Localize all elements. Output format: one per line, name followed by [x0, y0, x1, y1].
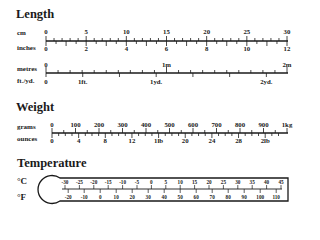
scale-label: 4 — [77, 137, 80, 144]
scale-label: 700 — [211, 121, 221, 128]
scale-label: -10 — [119, 179, 126, 185]
scale-label: 5 — [165, 179, 168, 185]
scale-label: 35 — [250, 179, 255, 185]
scale-label: 2lb — [261, 137, 270, 144]
scale-label: 90 — [242, 194, 247, 200]
scale-label: 2m — [282, 61, 291, 68]
scale-label: 15 — [192, 179, 197, 185]
scale-label: 110 — [272, 194, 280, 200]
scale-label: 800 — [235, 121, 245, 128]
scale-label: 10 — [178, 179, 183, 185]
scale-label: 10 — [123, 28, 130, 35]
scale-label: 40 — [264, 179, 269, 185]
scale-label: 15 — [163, 28, 170, 35]
scale-label: 20 — [130, 194, 135, 200]
scale-label: 24 — [208, 137, 215, 144]
scale-label: 400 — [141, 121, 151, 128]
scale-label: 5 — [84, 28, 87, 35]
scale-label: 20 — [203, 28, 210, 35]
scale-label: 1lb — [154, 137, 163, 144]
scale-label: 1kg — [282, 121, 293, 128]
scale-label: 0 — [99, 194, 102, 200]
scale-label: 600 — [188, 121, 198, 128]
scale-label: -20 — [65, 194, 72, 200]
scale-label: 900 — [258, 121, 268, 128]
scale-label: 30 — [146, 194, 151, 200]
scale-label: 0 — [44, 78, 47, 85]
scale-label: -20 — [90, 179, 97, 185]
scale-label: 10 — [243, 45, 250, 52]
scale-label: 45 — [278, 179, 283, 185]
scale-label: 12 — [284, 45, 291, 52]
scale-label: 20 — [206, 179, 211, 185]
scale-label: 6 — [165, 45, 168, 52]
scale-label: -15 — [105, 179, 112, 185]
scale-label: 100 — [256, 194, 264, 200]
scale-label: 8 — [205, 45, 208, 52]
scale-label: 80 — [226, 194, 231, 200]
scale-label: -10 — [81, 194, 88, 200]
scale-label: 30 — [284, 28, 291, 35]
scale-label: 1yd. — [150, 78, 162, 85]
scale-label: 0 — [50, 137, 53, 144]
scale-label: 25 — [243, 28, 250, 35]
scale-label: 25 — [221, 179, 226, 185]
scale-label: 200 — [94, 121, 104, 128]
scale-label: 0 — [44, 61, 47, 68]
scale-label: 60 — [194, 194, 199, 200]
scale-label: 4 — [125, 45, 128, 52]
scale-label: 0 — [44, 28, 47, 35]
scale-label: 20 — [182, 137, 189, 144]
scale-label: 2yd. — [260, 78, 272, 85]
scale-label: 500 — [164, 121, 174, 128]
scale-label: 12 — [129, 137, 136, 144]
scale-label: 0 — [150, 179, 153, 185]
scale-label: 50 — [178, 194, 183, 200]
scale-label: 0 — [44, 45, 47, 52]
scale-label: 1ft. — [78, 78, 88, 85]
scale-label: 2 — [84, 45, 87, 52]
scale-label: -30 — [62, 179, 69, 185]
scale-label: 1m — [162, 61, 171, 68]
scale-label: 30 — [235, 179, 240, 185]
scale-label: -25 — [76, 179, 83, 185]
scale-label: 100 — [70, 121, 80, 128]
scale-label: 300 — [117, 121, 127, 128]
scale-label: 70 — [210, 194, 215, 200]
scale-label: 8 — [104, 137, 107, 144]
scale-label: 0 — [50, 121, 53, 128]
scale-label: 10 — [114, 194, 119, 200]
scale-label: 40 — [162, 194, 167, 200]
scale-label: 28 — [235, 137, 242, 144]
scale-label: -5 — [135, 179, 139, 185]
